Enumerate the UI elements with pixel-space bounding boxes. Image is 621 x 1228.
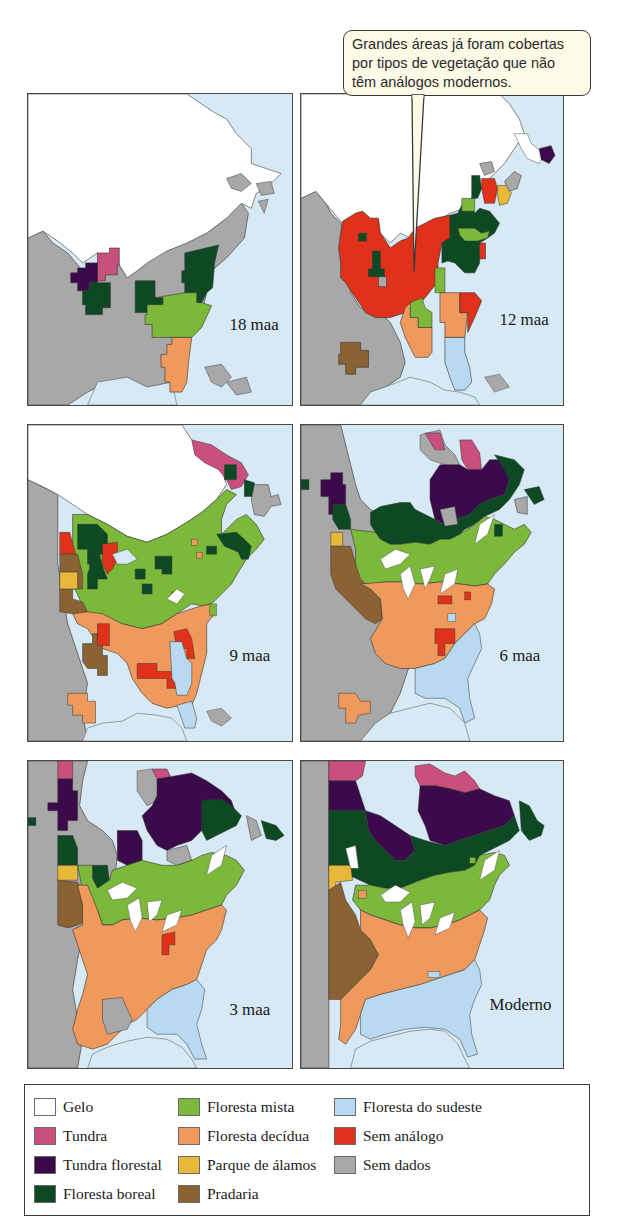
legend-label: Floresta decídua — [207, 1127, 309, 1145]
legend-label: Floresta boreal — [63, 1185, 156, 1203]
map-moderno: Moderno — [301, 761, 563, 1068]
callout-line-3: têm análogos modernos. — [352, 73, 582, 92]
map-9maa: 9 maa — [28, 425, 292, 741]
swatch-tundra — [34, 1127, 56, 1145]
legend-item-tundra: Tundra — [34, 1127, 107, 1145]
legend-item-gelo: Gelo — [34, 1098, 93, 1116]
panel-label-18maa: 18 maa — [229, 315, 279, 334]
legend-item-floresta-mista: Floresta mista — [178, 1098, 294, 1116]
legend-item-pradaria: Pradaria — [178, 1185, 259, 1203]
map-panel-12maa: 12 maa — [300, 93, 564, 406]
swatch-ice — [34, 1098, 56, 1116]
no-analog-callout: Grandes áreas já foram cobertas por tipo… — [343, 30, 591, 96]
callout-line-2: por tipos de vegetação que não — [352, 54, 582, 73]
legend: Gelo Tundra Tundra florestal Floresta bo… — [24, 1084, 590, 1216]
map-12maa: 12 maa — [301, 94, 563, 405]
legend-label: Sem dados — [363, 1156, 431, 1174]
swatch-no-data — [334, 1156, 356, 1174]
panel-label-3maa: 3 maa — [229, 1000, 270, 1019]
swatch-boreal — [34, 1185, 56, 1203]
panel-label-moderno: Moderno — [490, 995, 552, 1014]
swatch-southeast — [334, 1098, 356, 1116]
map-18maa: 18 maa — [28, 94, 292, 405]
map-3maa: 3 maa — [28, 761, 292, 1068]
legend-item-sem-dados: Sem dados — [334, 1156, 431, 1174]
map-panel-9maa: 9 maa — [27, 424, 293, 742]
legend-label: Floresta do sudeste — [363, 1098, 482, 1116]
map-6maa: 6 maa — [301, 425, 563, 741]
map-panel-moderno: Moderno — [300, 760, 564, 1069]
legend-item-floresta-sudeste: Floresta do sudeste — [334, 1098, 482, 1116]
legend-item-parque-alamos: Parque de álamos — [178, 1156, 316, 1174]
swatch-aspen — [178, 1156, 200, 1174]
swatch-no-analog — [334, 1127, 356, 1145]
map-panel-3maa: 3 maa — [27, 760, 293, 1069]
legend-label: Tundra florestal — [63, 1156, 162, 1174]
legend-label: Sem análogo — [363, 1127, 444, 1145]
legend-label: Parque de álamos — [207, 1156, 316, 1174]
legend-item-floresta-boreal: Floresta boreal — [34, 1185, 156, 1203]
swatch-forest-tundra — [34, 1156, 56, 1174]
map-panel-18maa: 18 maa — [27, 93, 293, 406]
legend-item-floresta-decidua: Floresta decídua — [178, 1127, 309, 1145]
panel-label-12maa: 12 maa — [499, 310, 549, 329]
swatch-prairie — [178, 1185, 200, 1203]
legend-label: Pradaria — [207, 1185, 259, 1203]
callout-line-1: Grandes áreas já foram cobertas — [352, 35, 582, 54]
legend-item-tundra-florestal: Tundra florestal — [34, 1156, 162, 1174]
legend-item-sem-analogo: Sem análogo — [334, 1127, 444, 1145]
legend-label: Floresta mista — [207, 1098, 294, 1116]
legend-label: Tundra — [63, 1127, 107, 1145]
legend-label: Gelo — [63, 1098, 93, 1116]
panel-label-9maa: 9 maa — [229, 646, 270, 665]
map-panel-6maa: 6 maa — [300, 424, 564, 742]
swatch-deciduous — [178, 1127, 200, 1145]
swatch-mixed — [178, 1098, 200, 1116]
panel-label-6maa: 6 maa — [499, 646, 540, 665]
